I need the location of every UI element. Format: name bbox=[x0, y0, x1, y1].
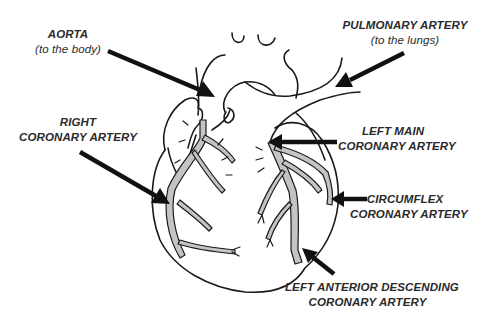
label-circumflex-coronary-artery: CIRCUMFLEX CORONARY ARTERY bbox=[350, 192, 460, 222]
right-coronary-line1: RIGHT bbox=[60, 116, 96, 128]
arrow-aorta bbox=[108, 51, 215, 97]
left-main-line2: CORONARY ARTERY bbox=[338, 139, 448, 154]
right-coronary-artery bbox=[166, 120, 206, 258]
label-right-coronary-artery: RIGHT CORONARY ARTERY bbox=[18, 115, 138, 145]
pulmonary-title: PULMONARY ARTERY bbox=[343, 19, 468, 31]
circumflex-line1: CIRCUMFLEX bbox=[367, 193, 443, 205]
aorta-subtitle: (to the body) bbox=[28, 42, 108, 57]
lad-line1: LEFT ANTERIOR DESCENDING bbox=[285, 281, 459, 293]
label-left-anterior-descending-artery: LEFT ANTERIOR DESCENDING CORONARY ARTERY bbox=[285, 280, 450, 310]
label-pulmonary-artery: PULMONARY ARTERY (to the lungs) bbox=[340, 18, 470, 48]
arrow-pulmonary bbox=[335, 53, 404, 87]
arrow-lad bbox=[302, 248, 334, 274]
arrow-right-coronary bbox=[80, 152, 170, 204]
circumflex-line2: CORONARY ARTERY bbox=[350, 207, 460, 222]
left-main-line1: LEFT MAIN bbox=[362, 125, 424, 137]
heart-diagram: AORTA (to the body) PULMONARY ARTERY (to… bbox=[0, 0, 485, 326]
aorta-title: AORTA bbox=[48, 28, 88, 40]
lad-line2: CORONARY ARTERY bbox=[285, 295, 450, 310]
pulmonary-subtitle: (to the lungs) bbox=[340, 33, 470, 48]
right-coronary-line2: CORONARY ARTERY bbox=[18, 130, 138, 145]
label-left-main-coronary-artery: LEFT MAIN CORONARY ARTERY bbox=[338, 124, 448, 154]
label-aorta: AORTA (to the body) bbox=[28, 27, 108, 57]
